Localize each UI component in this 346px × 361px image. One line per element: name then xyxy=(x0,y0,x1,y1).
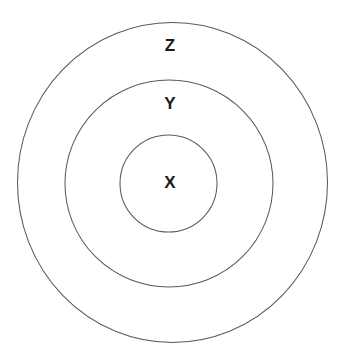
diagram-canvas: Z Y X xyxy=(0,0,346,361)
inner-zone-label: X xyxy=(164,174,175,191)
middle-zone-label: Y xyxy=(164,95,175,112)
outer-zone-label: Z xyxy=(165,37,175,54)
